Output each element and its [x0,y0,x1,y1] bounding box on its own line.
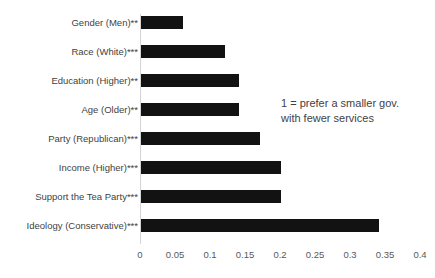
x-tick-label: 0.25 [295,249,335,261]
x-tick-label: 0.15 [225,249,265,261]
bar-row: Party (Republican)*** [0,131,435,160]
x-tick-label: 0.4 [400,249,435,261]
bar [141,219,379,232]
chart-annotation: 1 = prefer a smaller gov. with fewer ser… [281,96,433,126]
bar-row: Support the Tea Party*** [0,189,435,218]
bar [141,190,281,203]
x-tick-label: 0.2 [260,249,300,261]
bar [141,74,239,87]
bar-row: Income (Higher)*** [0,160,435,189]
x-tick-label: 0.35 [365,249,405,261]
x-tick-label: 0 [120,249,160,261]
bar-row: Race (White)*** [0,44,435,73]
bar-category-label: Gender (Men)** [0,16,138,29]
bar-category-label: Income (Higher)*** [0,161,138,174]
annotation-line-1: 1 = prefer a smaller gov. [281,96,433,111]
bar [141,161,281,174]
x-tick-label: 0.05 [155,249,195,261]
bar [141,16,183,29]
bar-category-label: Support the Tea Party*** [0,190,138,203]
bar [141,132,260,145]
bar-category-label: Age (Older)** [0,103,138,116]
plot-area: Gender (Men)**Race (White)***Education (… [0,0,435,278]
annotation-line-2: with fewer services [281,111,433,126]
bar-category-label: Race (White)*** [0,45,138,58]
bar-category-label: Education (Higher)** [0,74,138,87]
bar [141,103,239,116]
bar-row: Ideology (Conservative)*** [0,218,435,247]
x-tick-label: 0.3 [330,249,370,261]
bar-chart: Gender (Men)**Race (White)***Education (… [0,0,435,278]
x-tick-label: 0.1 [190,249,230,261]
bar-category-label: Ideology (Conservative)*** [0,219,138,232]
bar [141,45,225,58]
bar-row: Gender (Men)** [0,15,435,44]
bar-category-label: Party (Republican)*** [0,132,138,145]
